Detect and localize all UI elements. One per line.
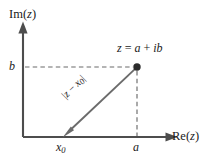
y-tick-label-b: b [9,60,15,72]
y-axis-label-suffix: ) [32,7,36,21]
x-axis [23,132,178,141]
point-label-imaginary-part: ib [153,41,162,55]
y-axis-label-prefix: Im( [9,7,27,21]
x-axis-label-prefix: Re( [172,129,190,143]
point-label-z: z = a + ib [117,42,163,54]
point-label-plus: + [140,41,153,55]
point-label-equals: = [122,41,135,55]
y-axis-arrowhead-icon [18,22,27,34]
y-axis-label: Im(z) [9,8,36,21]
complex-plane-figure: Im(z) Re(z) b x0 a z = a + ib |z − x0| [0,0,217,159]
x-axis-label: Re(z) [172,130,199,143]
y-axis [18,22,27,138]
point-marker-z [133,63,140,70]
x-tick-label-x0: x0 [56,141,66,154]
x-tick-label-x0-subscript: 0 [61,145,65,155]
x-axis-label-suffix: ) [195,129,199,143]
x-tick-label-a: a [133,141,139,153]
distance-vector-arrowhead-icon [63,127,74,138]
